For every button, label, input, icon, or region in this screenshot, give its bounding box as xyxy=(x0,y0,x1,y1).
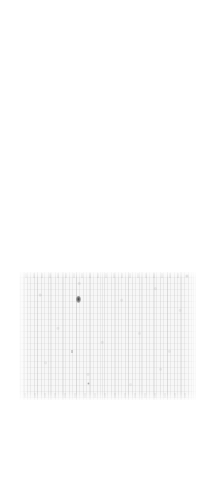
page-root xyxy=(0,0,212,492)
scan-edge-vignette xyxy=(19,272,196,400)
scanned-document-region xyxy=(19,272,196,400)
